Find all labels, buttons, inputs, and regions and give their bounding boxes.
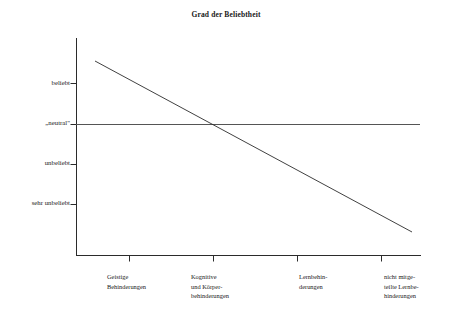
data-series-line — [95, 61, 412, 232]
chart-container: Grad der Beliebtheit beliebt „neutral" u… — [0, 0, 452, 322]
plot-area — [0, 0, 452, 322]
